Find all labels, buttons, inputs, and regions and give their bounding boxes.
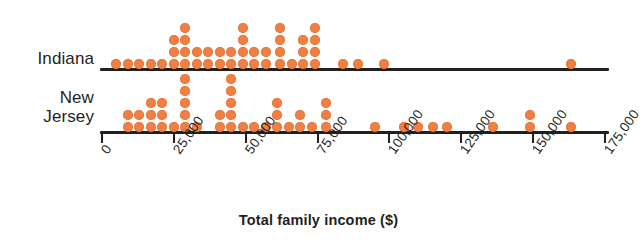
data-dot — [215, 47, 225, 57]
row-label-line: Jersey — [0, 107, 94, 126]
data-dot — [298, 47, 308, 57]
data-dot — [298, 35, 308, 45]
data-dot — [215, 122, 225, 132]
data-dot — [157, 98, 167, 108]
x-axis-end-cap — [101, 134, 103, 143]
data-dot — [226, 74, 236, 84]
data-dot — [169, 59, 179, 69]
axis-line-indiana — [100, 68, 609, 71]
data-dot — [566, 59, 576, 69]
data-dot — [272, 98, 282, 108]
x-axis-end-cap — [604, 134, 606, 143]
data-dot — [566, 122, 576, 132]
x-axis-tick-label-text: 75,000 — [314, 113, 351, 156]
data-dot — [123, 59, 133, 69]
x-axis-tick-label-text: 25,000 — [170, 113, 207, 156]
row-label-indiana: Indiana — [0, 49, 94, 68]
data-dot — [226, 47, 236, 57]
data-dot — [310, 59, 320, 69]
data-dot — [284, 122, 294, 132]
row-label-new-jersey: NewJersey — [0, 88, 94, 126]
data-dot — [192, 59, 202, 69]
data-dot — [261, 47, 271, 57]
data-dot — [180, 74, 190, 84]
data-dot — [146, 110, 156, 120]
data-dot — [169, 35, 179, 45]
data-dot — [134, 110, 144, 120]
data-dot — [442, 122, 452, 132]
x-axis-tick-label-text: 0 — [98, 142, 115, 157]
data-dot — [525, 110, 535, 120]
data-dot — [169, 122, 179, 132]
row-label-line: New — [0, 88, 94, 107]
data-dot — [238, 23, 248, 33]
data-dot — [307, 122, 317, 132]
data-dot — [249, 47, 259, 57]
row-label-line: Indiana — [0, 49, 94, 68]
data-dot — [275, 47, 285, 57]
data-dot — [146, 122, 156, 132]
data-dot — [321, 98, 331, 108]
x-axis-tick-label-text: 50,000 — [242, 113, 279, 156]
data-dot — [169, 47, 179, 57]
data-dot — [238, 47, 248, 57]
data-dot — [192, 47, 202, 57]
data-dot — [180, 98, 190, 108]
data-dot — [180, 47, 190, 57]
data-dot — [226, 98, 236, 108]
data-dot — [146, 59, 156, 69]
data-dot — [295, 110, 305, 120]
data-dot — [146, 98, 156, 108]
data-dot — [287, 59, 297, 69]
data-dot — [180, 23, 190, 33]
data-dot — [157, 110, 167, 120]
data-dot — [180, 86, 190, 96]
data-dot — [353, 59, 363, 69]
data-dot — [275, 23, 285, 33]
data-dot — [238, 35, 248, 45]
data-dot — [226, 86, 236, 96]
data-dot — [275, 35, 285, 45]
data-dot — [123, 110, 133, 120]
data-dot — [180, 110, 190, 120]
data-dot — [123, 122, 133, 132]
data-dot — [310, 23, 320, 33]
data-dot — [180, 35, 190, 45]
data-dot — [428, 122, 438, 132]
x-axis-title: Total family income ($) — [0, 212, 637, 228]
data-dot — [370, 122, 380, 132]
data-dot — [238, 122, 248, 132]
data-dot — [226, 110, 236, 120]
data-dot — [379, 59, 389, 69]
data-dot — [310, 35, 320, 45]
data-dot — [215, 110, 225, 120]
data-dot — [215, 59, 225, 69]
data-dot — [321, 110, 331, 120]
data-dot — [238, 59, 248, 69]
data-dot — [203, 47, 213, 57]
data-dot — [261, 59, 271, 69]
data-dot — [310, 47, 320, 57]
